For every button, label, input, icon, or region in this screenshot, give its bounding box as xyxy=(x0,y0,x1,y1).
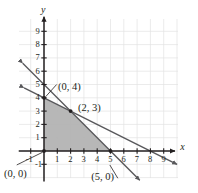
x-tick-label-3: 3 xyxy=(82,155,86,164)
vertex-marker xyxy=(42,96,46,100)
y-tick-label-3: 3 xyxy=(36,107,40,116)
point-label-5-0: (5, 0) xyxy=(91,172,114,183)
y-tick-label-7: 7 xyxy=(36,53,40,62)
vertex-marker xyxy=(109,149,113,153)
y-tick-label-5: 5 xyxy=(36,80,40,89)
y-tick-label-2: 2 xyxy=(36,120,40,129)
figure-container: x y -1123456789 987654321-1 (0, 4) (2, 3… xyxy=(0,0,198,193)
x-tick-label-9: 9 xyxy=(161,155,165,164)
x-axis-label: x xyxy=(180,142,184,152)
y-tick-label-1: 1 xyxy=(36,133,40,142)
y-tick-label-4: 4 xyxy=(36,93,40,102)
y-tick-label-9: 9 xyxy=(36,27,40,36)
x-tick-label--1: -1 xyxy=(26,155,33,164)
x-tick-label-6: 6 xyxy=(122,155,126,164)
point-label-2-3: (2, 3) xyxy=(78,103,101,114)
y-tick-label-6: 6 xyxy=(36,67,40,76)
vertex-marker xyxy=(42,149,46,153)
y-axis-label: y xyxy=(41,5,45,15)
coordinate-plane-svg xyxy=(0,0,198,193)
y-tick-label-8: 8 xyxy=(36,40,40,49)
x-tick-label-5: 5 xyxy=(108,155,112,164)
x-tick-label-7: 7 xyxy=(135,155,139,164)
x-tick-label-2: 2 xyxy=(68,155,72,164)
vertex-marker xyxy=(69,109,73,113)
point-label-0-0: (0, 0) xyxy=(4,169,27,180)
x-tick-label-4: 4 xyxy=(95,155,99,164)
x-tick-label-8: 8 xyxy=(148,155,152,164)
x-tick-label-1: 1 xyxy=(55,155,59,164)
point-label-0-4: (0, 4) xyxy=(58,82,81,93)
y-tick-label--1: -1 xyxy=(35,160,42,169)
